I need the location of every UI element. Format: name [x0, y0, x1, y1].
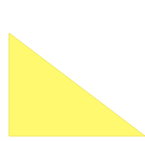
diagram-canvas [0, 0, 145, 141]
yellow-right-triangle [9, 33, 145, 136]
